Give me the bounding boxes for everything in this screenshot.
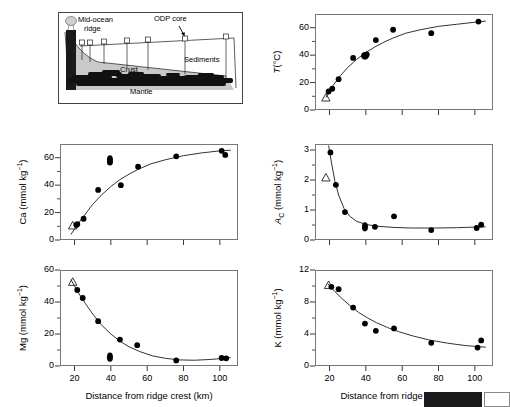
ytick-label-potassium-2: 8 bbox=[281, 296, 309, 306]
ytick-label-alkalinity-0: 0 bbox=[281, 234, 309, 244]
schematic-label-odp-core: ODP core bbox=[154, 15, 187, 24]
y-axis-label-potassium: K (mmol kg−1) bbox=[271, 270, 283, 366]
y-axis-label-calcium: Ca (mmol kg−1) bbox=[16, 144, 28, 240]
ytick-label-magnesium-3: 60 bbox=[26, 264, 54, 274]
xtick-label-potassium-0: 20 bbox=[314, 373, 346, 383]
xtick-label-potassium-4: 100 bbox=[459, 373, 491, 383]
ytick-label-alkalinity-3: 3 bbox=[281, 144, 309, 154]
ytick-label-temperature-3: 60 bbox=[281, 22, 309, 32]
schematic-label-mid-ocean-ridge-line2: ridge bbox=[84, 25, 101, 34]
ytick-label-temperature-0: 0 bbox=[281, 104, 309, 114]
ytick-label-calcium-2: 40 bbox=[26, 179, 54, 189]
ytick-label-alkalinity-2: 2 bbox=[281, 174, 309, 184]
figure-caption-tag-side bbox=[484, 392, 510, 407]
chart-potassium: 0481220406080100K (mmol kg−1)Distance fr… bbox=[255, 262, 510, 402]
ytick-label-potassium-3: 12 bbox=[281, 264, 309, 274]
y-axis-label-alkalinity: AC (mmol kg−1) bbox=[271, 144, 285, 240]
chart-temperature: 0204060T(°C) bbox=[255, 6, 510, 130]
ytick-label-magnesium-0: 0 bbox=[26, 360, 54, 370]
xtick-label-potassium-1: 40 bbox=[350, 373, 382, 383]
xtick-label-magnesium-3: 80 bbox=[168, 373, 200, 383]
seafloor-schematic: Mid-ocean ridge ODP core Sediments Crust… bbox=[58, 12, 243, 104]
figure-caption-tag bbox=[424, 392, 482, 407]
chart-magnesium: 020406020406080100Mg (mmol kg−1)Distance… bbox=[0, 262, 255, 402]
y-axis-label-temperature: T(°C) bbox=[271, 14, 282, 110]
ytick-label-magnesium-2: 40 bbox=[26, 296, 54, 306]
chart-calcium: 0204060Ca (mmol kg−1) bbox=[0, 136, 255, 260]
ytick-label-temperature-2: 40 bbox=[281, 49, 309, 59]
xtick-label-magnesium-4: 100 bbox=[204, 373, 236, 383]
xtick-label-potassium-2: 60 bbox=[386, 373, 418, 383]
schematic-label-mantle: Mantle bbox=[130, 88, 153, 97]
ytick-label-magnesium-1: 20 bbox=[26, 328, 54, 338]
xtick-label-potassium-3: 80 bbox=[423, 373, 455, 383]
chart-alkalinity: 0123AC (mmol kg−1) bbox=[255, 136, 510, 260]
y-axis-label-magnesium: Mg (mmol kg−1) bbox=[16, 270, 28, 366]
schematic-label-sediments: Sediments bbox=[184, 56, 219, 65]
ytick-label-calcium-0: 0 bbox=[26, 234, 54, 244]
ytick-label-alkalinity-1: 1 bbox=[281, 204, 309, 214]
ytick-label-temperature-1: 20 bbox=[281, 77, 309, 87]
schematic-label-crust: Crust bbox=[120, 66, 138, 75]
ytick-label-calcium-3: 60 bbox=[26, 152, 54, 162]
x-axis-label-magnesium: Distance from ridge crest (km) bbox=[60, 390, 238, 401]
ytick-label-calcium-1: 20 bbox=[26, 207, 54, 217]
xtick-label-magnesium-2: 60 bbox=[131, 373, 163, 383]
ytick-label-potassium-0: 0 bbox=[281, 360, 309, 370]
xtick-label-magnesium-0: 20 bbox=[59, 373, 91, 383]
ytick-label-potassium-1: 4 bbox=[281, 328, 309, 338]
xtick-label-magnesium-1: 40 bbox=[95, 373, 127, 383]
